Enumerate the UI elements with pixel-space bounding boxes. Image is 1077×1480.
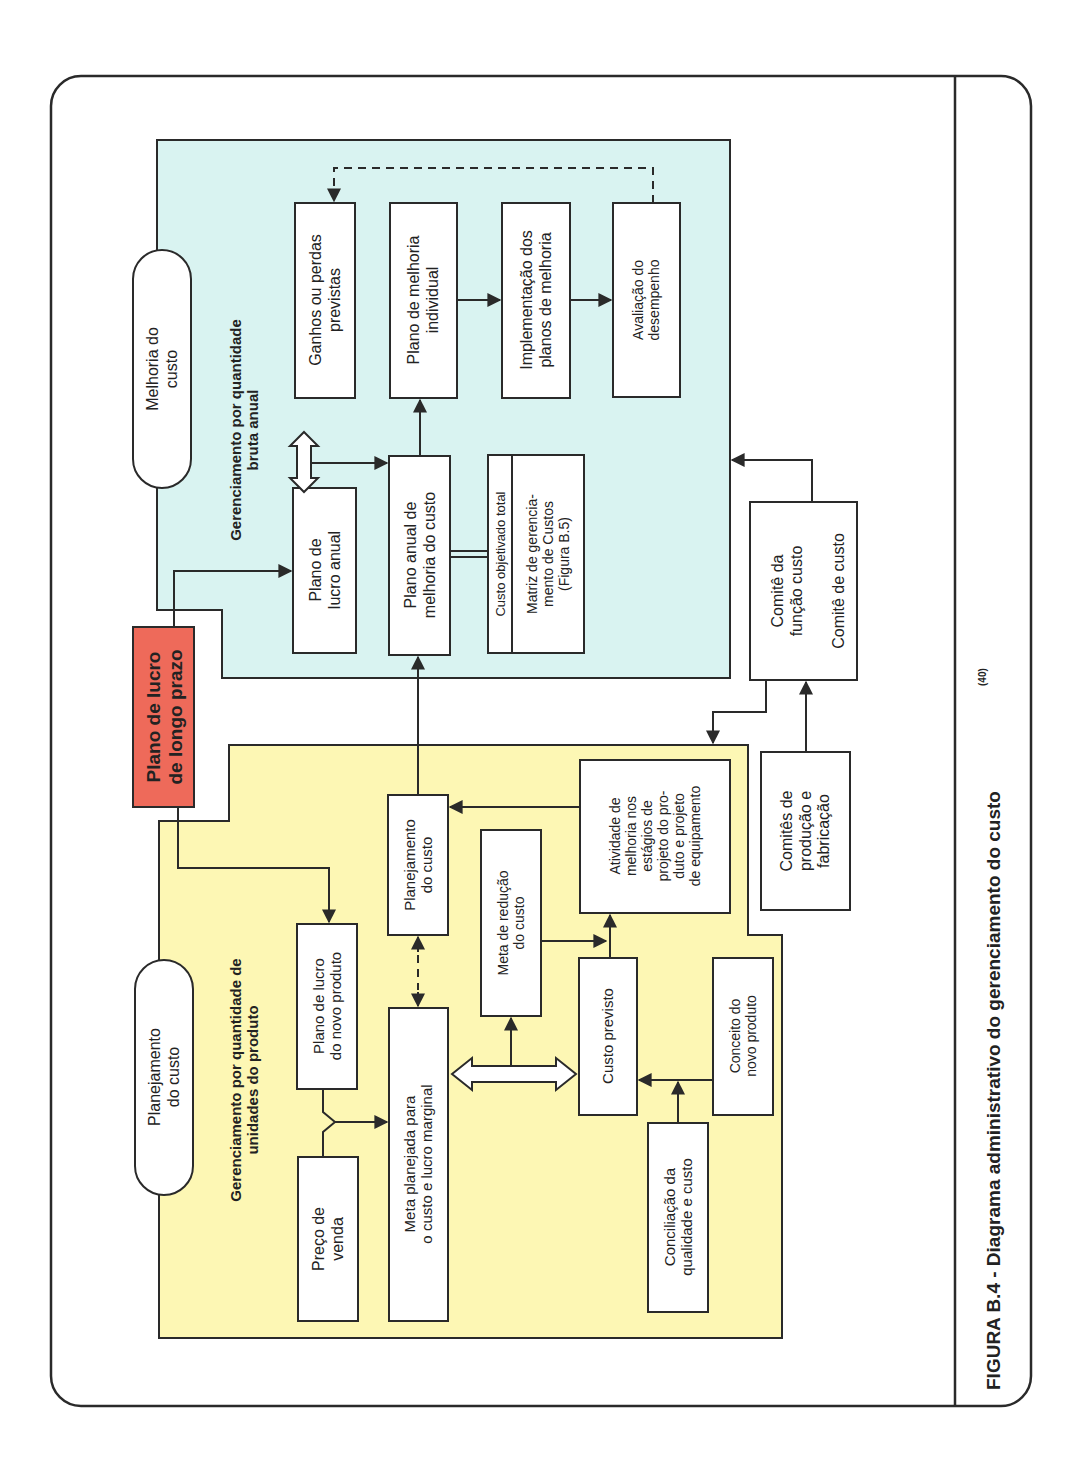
node-plano-melhoria-individual: Plano de melhoriaindividual <box>390 203 457 398</box>
label-text: Plano delucro anual <box>307 531 342 609</box>
diagram-canvas: Melhoria docusto Planejamentodo custo Ge… <box>0 0 1077 1480</box>
label-text: Meta planejada parao custo e lucro margi… <box>401 1084 435 1243</box>
label-text: Plano de lucrode longo prazo <box>143 649 186 784</box>
label-text: FIGURA B.4 - Diagrama administrativo do … <box>983 791 1004 1390</box>
node-plano-lucro-anual: Plano delucro anual <box>293 488 356 653</box>
pill-planejamento-do-custo: Planejamentodo custo <box>135 960 193 1195</box>
node-custo-previsto: Custo previsto <box>579 958 637 1115</box>
node-atividade-melhoria: Atividade demelhoria nosestágios deproje… <box>580 760 730 913</box>
node-conceito-novo-produto: Conceito donovo produto <box>713 958 773 1115</box>
label-text: Avaliação dodesempenho <box>630 259 662 340</box>
node-meta-planejada: Meta planejada parao custo e lucro margi… <box>389 1008 448 1321</box>
node-plano-lucro-novo-produto: Plano de lucrodo novo produto <box>297 924 357 1089</box>
node-custo-objetivado-matriz: Custo objetivado total Matriz de gerenci… <box>488 455 584 653</box>
label-text: Conciliação daqualidade e custo <box>661 1158 695 1276</box>
node-implementacao: Implementação dosplanos de melhoria <box>502 203 570 398</box>
label-text: Plano anual demelhoria do custo <box>402 492 437 618</box>
label-text: Implementação dosplanos de melhoria <box>518 230 553 370</box>
node-plano-anual-melhoria: Plano anual demelhoria do custo <box>389 456 450 655</box>
node-planejamento-custo: Planejamentodo custo <box>388 795 448 935</box>
node-avaliacao: Avaliação dodesempenho <box>613 203 680 397</box>
label-text: Comitê de custo <box>830 533 847 649</box>
node-ganhos-perdas: Ganhos ou perdasprevistas <box>295 203 355 398</box>
label-text: Plano de lucrodo novo produto <box>310 952 344 1060</box>
label-text: Conceito donovo produto <box>727 995 759 1077</box>
label-text: Comitês deprodução efabricação <box>778 790 832 871</box>
pill-melhoria-do-custo: Melhoria docusto <box>133 250 191 488</box>
label-text: Atividade demelhoria nosestágios deproje… <box>607 786 703 887</box>
node-conciliacao: Conciliação daqualidade e custo <box>648 1123 708 1312</box>
label-text: Custo previsto <box>599 988 616 1084</box>
node-comite-funcao-custo: Comitê dafunção custo Comitê de custo <box>750 502 857 680</box>
node-preco-venda: Preço devenda <box>298 1157 358 1321</box>
diagram-page: Melhoria docusto Planejamentodo custo Ge… <box>0 0 1077 1480</box>
label-text: (40) <box>977 668 988 686</box>
label-text: Custo objetivado total <box>493 491 508 616</box>
node-meta-reducao: Meta de reduçãodo custo <box>481 830 541 1016</box>
node-comites-producao: Comitês deprodução efabricação <box>761 752 850 910</box>
node-plano-lucro-longo-prazo: Plano de lucrode longo prazo <box>133 627 194 807</box>
label-text: Comitê dafunção custo <box>769 546 804 637</box>
